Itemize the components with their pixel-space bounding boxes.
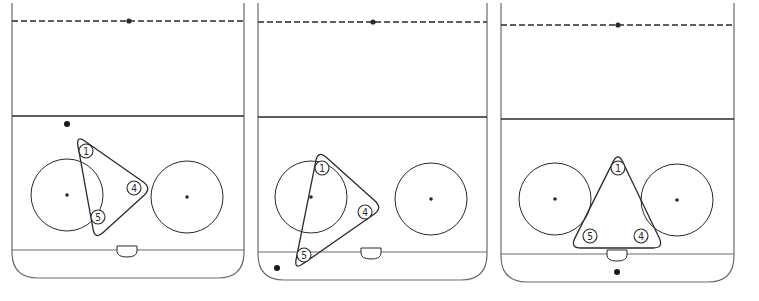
player-5: 5 bbox=[297, 248, 311, 262]
goal-crease bbox=[361, 248, 381, 259]
player-1: 1 bbox=[611, 161, 625, 175]
goal-crease bbox=[607, 250, 627, 261]
panel-3: 154 bbox=[501, 3, 734, 282]
puck bbox=[64, 121, 70, 127]
faceoff-dot bbox=[429, 197, 433, 201]
player-number: 1 bbox=[615, 163, 621, 174]
boards bbox=[501, 3, 734, 282]
player-1: 1 bbox=[315, 161, 329, 175]
faceoff-dot bbox=[65, 193, 69, 197]
panel-2: 145 bbox=[258, 3, 487, 280]
center-faceoff-dot bbox=[126, 18, 131, 23]
faceoff-dot bbox=[675, 198, 679, 202]
player-number: 1 bbox=[83, 146, 89, 157]
player-number: 1 bbox=[319, 163, 325, 174]
player-number: 5 bbox=[587, 231, 593, 242]
faceoff-dot bbox=[309, 195, 313, 199]
boards bbox=[258, 3, 487, 280]
center-faceoff-dot bbox=[615, 22, 620, 27]
panel-1: 145 bbox=[12, 3, 244, 278]
player-4: 4 bbox=[634, 229, 648, 243]
player-4: 4 bbox=[358, 205, 372, 219]
boards bbox=[12, 3, 244, 278]
player-number: 4 bbox=[638, 231, 644, 242]
player-5: 5 bbox=[583, 229, 597, 243]
player-number: 5 bbox=[95, 212, 101, 223]
hockey-zone-diagrams: 145145154 bbox=[0, 0, 759, 301]
puck bbox=[274, 265, 280, 271]
player-number: 5 bbox=[301, 250, 307, 261]
player-5: 5 bbox=[91, 210, 105, 224]
player-4: 4 bbox=[127, 181, 141, 195]
faceoff-dot bbox=[553, 197, 557, 201]
diagram-canvas: 145145154 bbox=[0, 0, 759, 301]
puck bbox=[614, 269, 620, 275]
player-number: 4 bbox=[131, 183, 137, 194]
faceoff-dot bbox=[185, 195, 189, 199]
player-1: 1 bbox=[79, 144, 93, 158]
player-number: 4 bbox=[362, 207, 368, 218]
goal-crease bbox=[117, 246, 137, 257]
center-faceoff-dot bbox=[370, 19, 375, 24]
